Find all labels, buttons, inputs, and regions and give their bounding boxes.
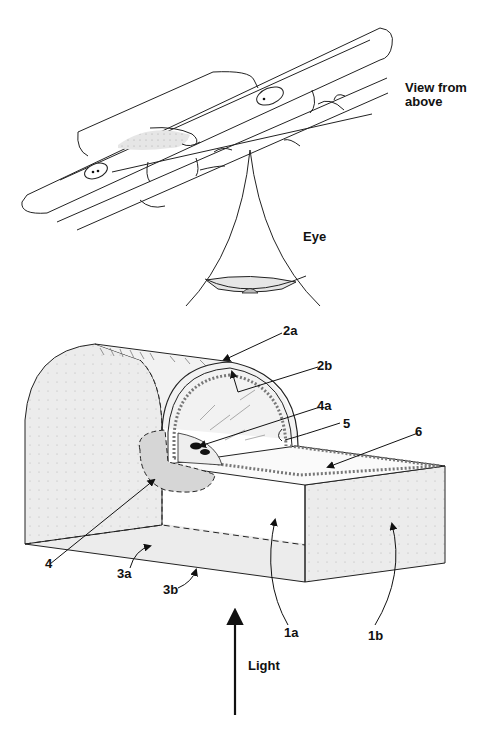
label-1b: 1b <box>368 628 383 643</box>
label-5: 5 <box>343 416 350 431</box>
eye-label: Eye <box>303 229 326 244</box>
label-4: 4 <box>45 556 53 571</box>
right-box-face <box>305 466 445 582</box>
stippled-overlap <box>118 130 190 150</box>
top-view-cells <box>22 28 393 306</box>
label-4a: 4a <box>317 398 332 413</box>
label-3a: 3a <box>117 566 132 581</box>
label-1a: 1a <box>284 625 299 640</box>
nucleus-left <box>82 160 109 182</box>
label-6: 6 <box>415 424 422 439</box>
cell-boundary-line-1 <box>57 78 387 222</box>
cell-boundary-line-2 <box>77 93 388 230</box>
view-from-above-label-2: above <box>405 94 443 109</box>
upper-short-cell <box>78 72 258 132</box>
long-cell-1 <box>22 28 393 213</box>
label-3b: 3b <box>163 582 178 597</box>
pigment-granule-2 <box>200 449 210 455</box>
light-label: Light <box>248 658 280 673</box>
label-2b: 2b <box>317 358 332 373</box>
view-from-above-label: View from <box>405 80 467 95</box>
diagram-canvas: View from above Eye <box>0 0 480 743</box>
block-diagram <box>25 344 445 582</box>
label-2a: 2a <box>283 323 298 338</box>
